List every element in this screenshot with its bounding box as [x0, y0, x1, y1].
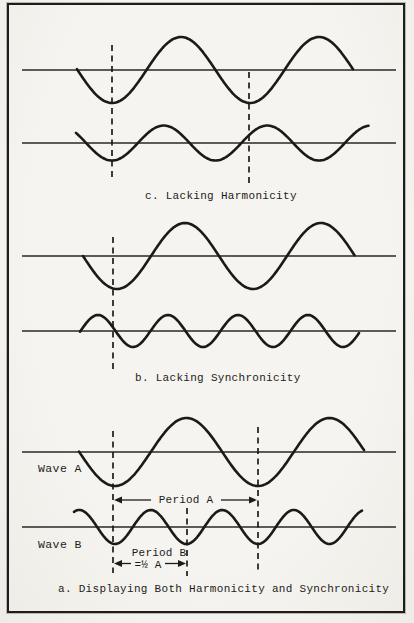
scanned-figure-page: c. Lacking Harmonicity b. Lacking Synchr…	[0, 0, 414, 623]
period-b-annotation: Period B	[132, 547, 187, 559]
wave-b-label: Wave B	[38, 538, 82, 551]
half-A-span-right-arrowhead-icon	[178, 560, 186, 567]
half-A-span-left-arrowhead-icon	[114, 560, 122, 567]
wave-a-label: Wave A	[38, 462, 82, 475]
period-A-span-left-arrowhead-icon	[114, 497, 122, 504]
period-A-span-right-arrowhead-icon	[249, 497, 257, 504]
period-a-annotation: Period A	[159, 494, 214, 506]
caption-harmonicity-and-synchronicity: a. Displaying Both Harmonicity and Synch…	[58, 583, 389, 595]
caption-lacking-harmonicity: c. Lacking Harmonicity	[145, 190, 297, 202]
caption-lacking-synchronicity: b. Lacking Synchronicity	[135, 372, 301, 384]
waveform-figure: c. Lacking Harmonicity b. Lacking Synchr…	[0, 0, 414, 623]
half-period-a-annotation: =½ A	[134, 559, 161, 571]
